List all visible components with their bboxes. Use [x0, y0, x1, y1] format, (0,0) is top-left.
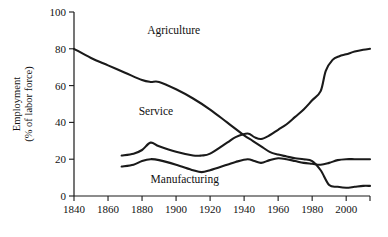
x-axis-tick-label: 1920: [199, 203, 222, 215]
series-annotation-agriculture: Agriculture: [147, 24, 200, 37]
y-axis-title-group: Employment(% of labor force): [11, 66, 35, 142]
y-axis-title-line2: (% of labor force): [23, 66, 35, 142]
x-axis-tick-label: 1860: [97, 203, 120, 215]
x-axis-tick-label: 1960: [267, 203, 290, 215]
y-axis-title-line1: Employment: [11, 77, 22, 131]
x-axis-tick-label: 1880: [131, 203, 154, 215]
x-axis-tick-label: 1900: [165, 203, 188, 215]
series-annotation-manufacturing: Manufacturing: [151, 173, 220, 186]
y-axis-tick-label: 0: [61, 190, 67, 202]
employment-line-chart: 020406080100 184018601880190019201940196…: [0, 0, 388, 237]
series-annotation-service: Service: [139, 105, 173, 117]
x-axis-tick-label: 2000: [335, 203, 358, 215]
y-axis-tick-label: 20: [55, 153, 67, 165]
y-axis-tick-label: 40: [55, 116, 67, 128]
y-axis-title: Employment(% of labor force): [11, 66, 35, 142]
chart-canvas: 020406080100 184018601880190019201940196…: [0, 0, 388, 237]
y-axis-tick-label: 100: [50, 6, 67, 18]
x-axis-tick-label: 1940: [233, 203, 256, 215]
x-axis-tick-label: 1980: [301, 203, 324, 215]
x-axis-tick-label: 1840: [63, 203, 86, 215]
y-axis-tick-label: 60: [55, 80, 67, 92]
y-axis-tick-label: 80: [55, 43, 67, 55]
